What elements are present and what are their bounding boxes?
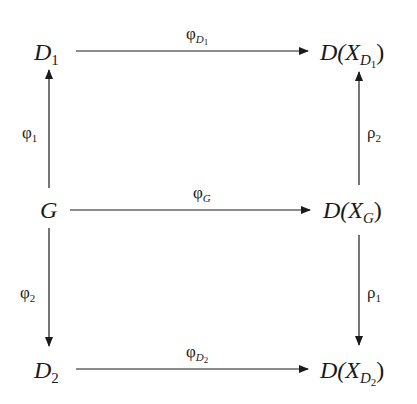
node-D-X-D2: D(XD2)	[320, 358, 384, 388]
label-phi-2: φ2	[20, 284, 35, 304]
label-phi-D1: φD1	[186, 25, 208, 47]
node-D1: D1	[34, 40, 59, 68]
node-D-X-G: D(XG)	[323, 198, 382, 226]
node-D-X-D1: D(XD1)	[320, 40, 384, 70]
commutative-diagram: D1 G D2 D(XD1) D(XG) D(XD2) φD1 φG φD2 φ…	[0, 0, 417, 404]
label-phi-D2: φD2	[186, 343, 208, 365]
label-phi-1: φ1	[22, 124, 37, 144]
label-phi-G: φG	[193, 184, 211, 204]
node-G: G	[40, 198, 57, 222]
label-rho-1: ρ1	[367, 284, 381, 304]
node-D2: D2	[34, 358, 59, 386]
label-rho-2: ρ2	[367, 124, 381, 144]
